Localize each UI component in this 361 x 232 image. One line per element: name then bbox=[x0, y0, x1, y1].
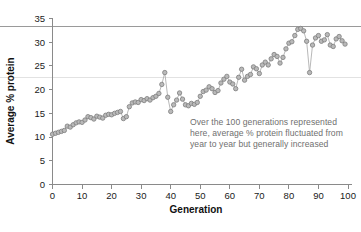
x-tick-label: 60 bbox=[225, 190, 236, 201]
data-point bbox=[293, 33, 297, 37]
data-point bbox=[284, 47, 288, 51]
data-point bbox=[307, 70, 311, 74]
data-point bbox=[304, 39, 308, 43]
data-point bbox=[269, 57, 273, 61]
data-point bbox=[174, 98, 178, 102]
y-tick-label: 35 bbox=[34, 13, 45, 24]
data-point bbox=[219, 81, 223, 85]
data-point bbox=[127, 105, 131, 109]
data-point bbox=[281, 55, 285, 59]
data-point bbox=[248, 72, 252, 76]
x-tick-label: 40 bbox=[165, 190, 176, 201]
x-tick-label: 50 bbox=[195, 190, 206, 201]
data-point bbox=[254, 67, 258, 71]
data-point bbox=[180, 97, 184, 101]
y-tick-label: 25 bbox=[34, 60, 45, 71]
x-tick-label: 0 bbox=[50, 190, 55, 201]
data-point bbox=[322, 38, 326, 42]
data-point bbox=[225, 74, 229, 78]
data-point bbox=[118, 109, 122, 113]
y-tick-label: 15 bbox=[34, 108, 45, 119]
data-point bbox=[325, 32, 329, 36]
x-tick-label: 100 bbox=[340, 190, 356, 201]
y-tick-label: 5 bbox=[40, 155, 45, 166]
data-point bbox=[301, 29, 305, 33]
data-point bbox=[257, 71, 261, 75]
data-point bbox=[266, 63, 270, 67]
data-point bbox=[310, 43, 314, 47]
data-point bbox=[163, 70, 167, 74]
x-tick-label: 20 bbox=[106, 190, 117, 201]
data-point bbox=[124, 114, 128, 118]
x-tick-label: 90 bbox=[313, 190, 324, 201]
chart-container: 051015202530350102030405060708090100 Gen… bbox=[0, 0, 361, 232]
data-point bbox=[234, 86, 238, 90]
data-point bbox=[169, 109, 173, 113]
data-point bbox=[242, 78, 246, 82]
data-point bbox=[160, 82, 164, 86]
data-point bbox=[195, 100, 199, 104]
y-tick-label: 10 bbox=[34, 131, 45, 142]
data-point bbox=[171, 103, 175, 107]
chart-annotation: Over the 100 generations represented her… bbox=[190, 117, 358, 151]
data-point bbox=[331, 44, 335, 48]
y-tick-label: 30 bbox=[34, 37, 45, 48]
data-point bbox=[239, 67, 243, 71]
y-axis-title: Average % protein bbox=[5, 57, 16, 144]
data-point bbox=[177, 91, 181, 95]
data-point bbox=[166, 95, 170, 99]
data-point bbox=[337, 34, 341, 38]
y-tick-label: 20 bbox=[34, 84, 45, 95]
data-point bbox=[236, 75, 240, 79]
x-tick-label: 10 bbox=[77, 190, 88, 201]
data-point bbox=[210, 86, 214, 90]
x-axis-title: Generation bbox=[170, 204, 223, 215]
data-point bbox=[278, 61, 282, 65]
y-tick-label: 0 bbox=[40, 179, 45, 190]
data-point bbox=[275, 54, 279, 58]
x-tick-label: 70 bbox=[254, 190, 265, 201]
x-tick-label: 80 bbox=[284, 190, 295, 201]
reference-lines-group bbox=[0, 27, 361, 78]
data-point bbox=[216, 88, 220, 92]
protein-generation-scatter-chart: 051015202530350102030405060708090100 Gen… bbox=[0, 0, 361, 232]
data-point bbox=[231, 82, 235, 86]
data-point bbox=[157, 91, 161, 95]
data-point bbox=[62, 128, 66, 132]
x-tick-label: 30 bbox=[136, 190, 147, 201]
data-point bbox=[198, 94, 202, 98]
data-point bbox=[316, 33, 320, 37]
data-point bbox=[343, 42, 347, 46]
data-point bbox=[290, 40, 294, 44]
